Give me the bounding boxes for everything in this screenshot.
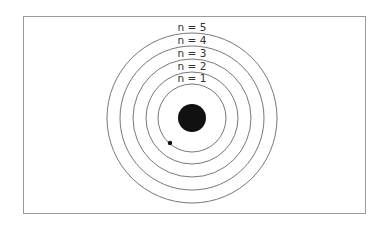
nucleus bbox=[178, 104, 206, 132]
orbit-label-n2: n = 2 bbox=[178, 60, 207, 72]
orbit-label-n1: n = 1 bbox=[178, 72, 207, 84]
orbit-labels: n = 1 n = 2 n = 3 n = 4 n = 5 bbox=[178, 21, 207, 84]
electron bbox=[168, 141, 172, 145]
bohr-model-diagram: n = 1 n = 2 n = 3 n = 4 n = 5 bbox=[0, 0, 386, 231]
orbit-label-n5: n = 5 bbox=[178, 21, 207, 33]
orbit-label-n3: n = 3 bbox=[178, 47, 207, 59]
orbit-label-n4: n = 4 bbox=[178, 34, 207, 46]
